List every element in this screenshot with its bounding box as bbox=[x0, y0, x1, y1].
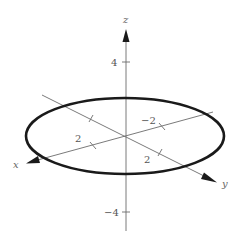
x-axis: x 2 −2 bbox=[13, 112, 213, 170]
z-tick-label-neg4: −4 bbox=[104, 207, 119, 218]
x-tick-label-2: 2 bbox=[75, 133, 81, 144]
z-axis-label: z bbox=[122, 14, 129, 25]
z-axis: z 4 −4 bbox=[104, 14, 130, 231]
z-axis-arrow-icon bbox=[123, 29, 130, 42]
z-tick-label-4: 4 bbox=[111, 57, 117, 68]
y-axis-arrow-icon bbox=[201, 173, 217, 183]
y-tick-label-neg2: −2 bbox=[141, 115, 156, 126]
y-axis-label: y bbox=[221, 178, 228, 189]
3d-ellipse-diagram: z 4 −4 y 2 x 2 −2 bbox=[0, 0, 237, 236]
x-axis-arrow-icon bbox=[26, 156, 40, 164]
y-tick-label-2: 2 bbox=[144, 154, 150, 165]
x-axis-label: x bbox=[13, 159, 19, 170]
